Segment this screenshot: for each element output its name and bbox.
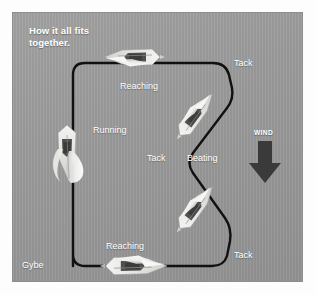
- down-arrow-icon: [249, 141, 281, 183]
- label-gybe-bottom-left: Gybe: [22, 260, 44, 270]
- screenshot-root: How it all fits together. WIND Reaching …: [0, 0, 316, 295]
- label-beating-right: Beating: [187, 153, 218, 163]
- label-tack-middle: Tack: [147, 153, 166, 163]
- label-reaching-top: Reaching: [120, 81, 158, 91]
- wind-label: WIND: [254, 129, 273, 136]
- label-tack-bottom-right: Tack: [234, 250, 253, 260]
- sailing-diagram-panel: How it all fits together. WIND Reaching …: [12, 12, 303, 282]
- label-reaching-bottom: Reaching: [106, 241, 144, 251]
- wind-indicator-layer: [13, 13, 303, 282]
- label-tack-top-right: Tack: [234, 58, 253, 68]
- label-running-left: Running: [93, 125, 127, 135]
- page-title: How it all fits together.: [29, 25, 89, 48]
